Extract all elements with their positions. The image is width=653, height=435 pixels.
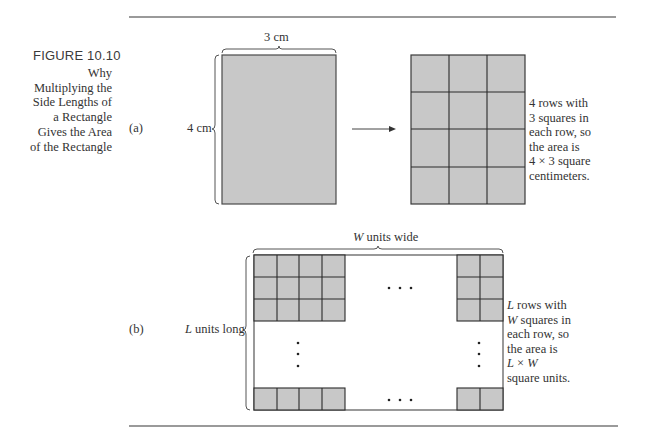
width-label-a: 3 cm xyxy=(264,30,289,45)
top-right-squares xyxy=(457,255,503,321)
note-line: the area is xyxy=(507,342,571,357)
height-label-b: L units long xyxy=(185,322,245,337)
top-left-squares xyxy=(254,255,345,321)
explanation-b: L rows with W squares in each row, so th… xyxy=(507,298,571,386)
note-line: L rows with xyxy=(507,298,571,313)
width-text: units wide xyxy=(363,230,418,244)
note-line: each row, so xyxy=(507,327,571,342)
note-line: W squares in xyxy=(507,313,571,328)
height-label-a: 4 cm xyxy=(187,121,212,136)
note-line: 4 × 3 square xyxy=(529,154,591,169)
height-brace-a xyxy=(212,55,219,204)
explanation-a: 4 rows with 3 squares in each row, so th… xyxy=(529,96,591,184)
note-line: square units. xyxy=(507,371,571,386)
arrow-head-icon xyxy=(389,126,396,132)
part-b-label: (b) xyxy=(129,322,144,337)
note-line: 3 squares in xyxy=(529,111,591,126)
note-line: each row, so xyxy=(529,125,591,140)
height-variable: L xyxy=(185,322,192,336)
part-a-label: (a) xyxy=(129,121,143,136)
note-line: the area is xyxy=(529,140,591,155)
bottom-right-squares xyxy=(457,388,503,410)
height-text: units long xyxy=(192,322,245,336)
solid-rectangle-a xyxy=(222,55,336,204)
width-brace-a xyxy=(222,46,336,53)
width-variable: W xyxy=(353,230,363,244)
note-line: 4 rows with xyxy=(529,96,591,111)
width-brace-b xyxy=(253,246,503,253)
note-line: L × W xyxy=(507,356,571,371)
width-label-b: W units wide xyxy=(353,230,418,245)
bottom-left-squares xyxy=(254,388,345,410)
note-line: centimeters. xyxy=(529,169,591,184)
grid-rectangle-a xyxy=(411,55,525,204)
